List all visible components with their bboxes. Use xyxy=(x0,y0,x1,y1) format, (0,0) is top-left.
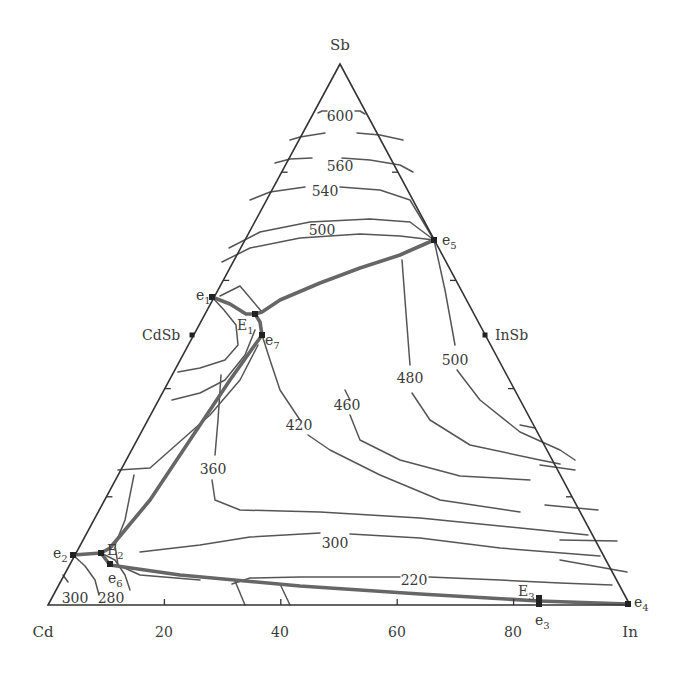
isotherm-600 xyxy=(355,111,365,114)
isotherm-480 xyxy=(412,393,560,464)
compound-marker-cdsb xyxy=(190,333,195,338)
isotherm-360 xyxy=(212,480,588,535)
point-marker-E1 xyxy=(252,311,258,317)
point-label-e6: e6 xyxy=(108,570,123,589)
isotherm-ternary-dropB xyxy=(280,584,290,605)
isotherm-label-500: 500 xyxy=(309,222,336,238)
tick-label-80: 80 xyxy=(504,624,522,640)
isotherm-500-right xyxy=(434,240,455,345)
point-marker-e3 xyxy=(536,601,542,607)
ternary-plot: e1e2e3e4e5e6e7E1E2E3 CdSbInSb 6005605405… xyxy=(0,0,680,678)
point-marker-e5 xyxy=(431,237,437,243)
boundary-E1-e7 xyxy=(255,314,262,335)
isotherm-right-edge-5 xyxy=(560,560,627,572)
point-marker-e4 xyxy=(625,601,631,607)
isotherm-lines xyxy=(63,111,627,605)
isotherm-label-480: 480 xyxy=(397,370,424,386)
isotherm-460 xyxy=(350,415,530,480)
isotherm-360 xyxy=(215,375,221,455)
isotherm-label-300: 300 xyxy=(322,535,349,551)
isotherm-label-300: 300 xyxy=(62,590,89,606)
tick-label-40: 40 xyxy=(271,624,289,640)
point-marker-e2 xyxy=(70,552,76,558)
vertex-label-sb: Sb xyxy=(330,36,350,54)
triangle-frame xyxy=(48,64,630,605)
point-label-e4: e4 xyxy=(634,594,649,613)
bottom-axis: 20 40 60 80 xyxy=(155,624,522,640)
isotherm-label-540: 540 xyxy=(312,183,339,199)
ternary-diagram: e1e2e3e4e5e6e7E1E2E3 CdSbInSb 6005605405… xyxy=(0,0,680,678)
isotherm-300 xyxy=(140,533,320,552)
isotherm-e2-300 xyxy=(73,555,99,595)
point-label-e3: e3 xyxy=(535,612,550,631)
isotherm-300 xyxy=(350,534,600,556)
isotherm-540 xyxy=(275,158,312,163)
point-label-e2: e2 xyxy=(53,545,68,564)
compound-label-cdsb: CdSb xyxy=(142,327,180,343)
compound-markers: CdSbInSb xyxy=(142,327,528,343)
isotherm-label-360: 360 xyxy=(200,461,227,477)
isotherm-label-560: 560 xyxy=(327,158,354,174)
isotherm-label-420: 420 xyxy=(286,417,313,433)
compound-marker-insb xyxy=(483,333,488,338)
point-marker-E2 xyxy=(98,550,104,556)
point-marker-e6 xyxy=(107,561,113,567)
tick-label-20: 20 xyxy=(155,624,173,640)
isotherm-ternary-dropA xyxy=(235,581,245,605)
vertex-label-cd: Cd xyxy=(32,623,53,641)
tick-label-60: 60 xyxy=(388,624,406,640)
point-label-e7: e7 xyxy=(265,332,280,351)
point-marker-E3 xyxy=(536,595,542,601)
boundary-e2-E2 xyxy=(73,553,101,555)
point-label-e5: e5 xyxy=(442,232,457,251)
isotherm-right-edge-3 xyxy=(545,505,598,510)
isotherm-label-220: 220 xyxy=(401,572,428,588)
isotherm-460-upper xyxy=(222,234,434,262)
point-label-E2: E2 xyxy=(107,542,124,561)
isotherm-480 xyxy=(402,260,410,365)
vertex-label-in: In xyxy=(622,623,638,641)
isotherm-label-500: 500 xyxy=(442,352,469,368)
point-label-E1: E1 xyxy=(237,317,254,336)
isotherm-cdsb-inner-4 xyxy=(118,345,258,470)
boundary-e5-E1 xyxy=(255,240,434,314)
boundary-E3-e4 xyxy=(539,601,628,604)
isotherm-label-280: 280 xyxy=(98,590,125,606)
point-label-e1: e1 xyxy=(196,287,211,306)
isotherm-420 xyxy=(308,435,520,512)
isotherm-label-600: 600 xyxy=(327,108,354,124)
isotherm-500 xyxy=(250,187,305,200)
compound-label-insb: InSb xyxy=(495,327,528,343)
isotherm-label-460: 460 xyxy=(334,397,361,413)
isotherm-560 xyxy=(290,133,325,140)
isotherm-right-edge-4 xyxy=(560,540,617,541)
isotherm-right-edge-1 xyxy=(520,425,535,428)
isotherm-cdsb-inner-1 xyxy=(220,286,262,312)
boundary-e1-E1 xyxy=(212,297,255,314)
